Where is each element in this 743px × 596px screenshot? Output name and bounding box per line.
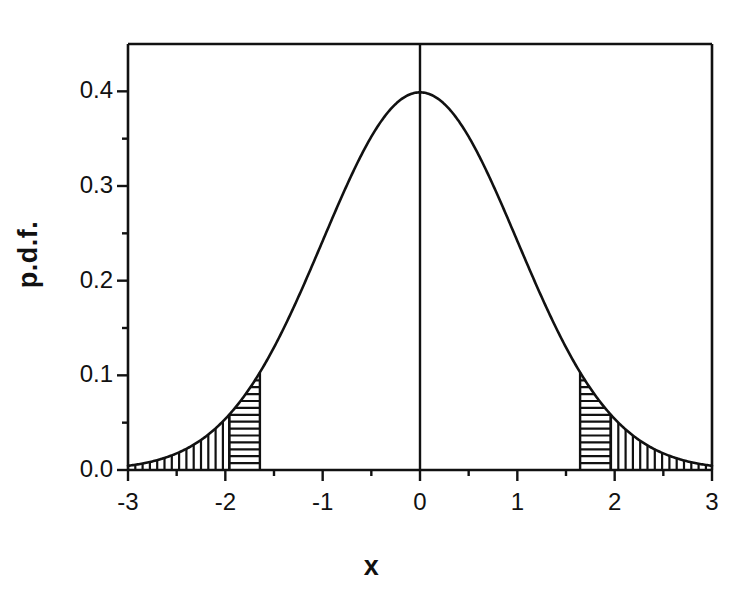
left-inner-tail	[226, 373, 263, 470]
y-tick-label: 0.0	[33, 455, 113, 483]
x-axis-title: x	[0, 551, 743, 582]
y-tick-label: 0.2	[33, 266, 113, 294]
x-tick-label: -1	[293, 488, 353, 516]
x-tick-label: 3	[682, 488, 742, 516]
x-tick-label: -3	[98, 488, 158, 516]
right-inner-tail	[577, 373, 614, 470]
x-tick-label: -2	[195, 488, 255, 516]
y-tick-label: 0.3	[33, 171, 113, 199]
axis-ticks	[117, 91, 712, 481]
left-outer-tail	[128, 411, 223, 470]
y-tick-label: 0.1	[33, 360, 113, 388]
x-tick-label: 2	[585, 488, 645, 516]
normal-distribution-figure: x p.d.f. -3-2-10123 0.00.10.20.30.4	[0, 0, 743, 596]
x-tick-label: 1	[487, 488, 547, 516]
y-tick-label: 0.4	[33, 76, 113, 104]
x-tick-label: 0	[390, 488, 450, 516]
